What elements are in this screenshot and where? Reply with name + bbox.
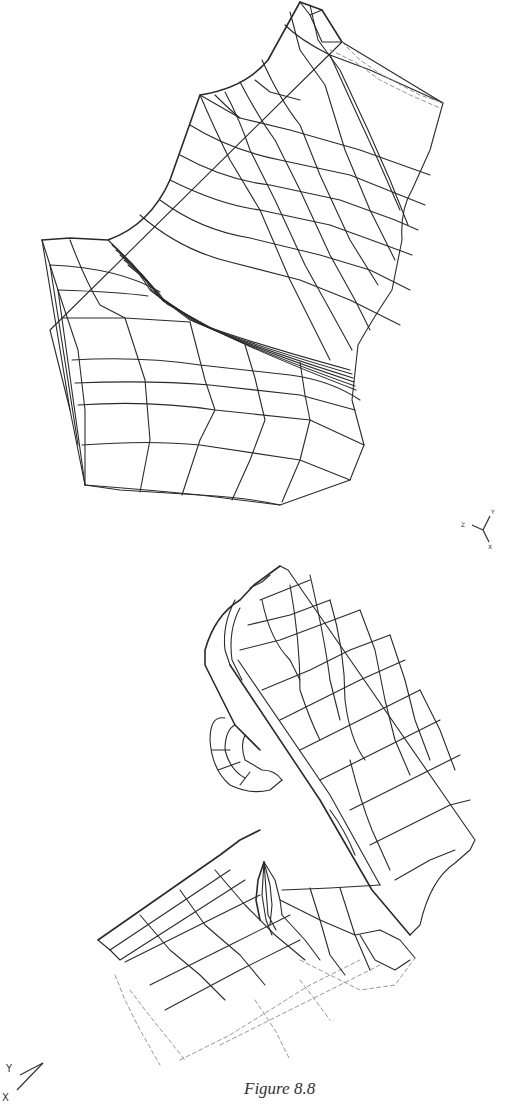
figure-canvas: Z Y X [0,0,508,1117]
bottom-mesh [98,566,475,1065]
top-mesh [42,2,443,505]
top-triad-y-label: Y [490,508,495,515]
figure-caption: Figure 8.8 [244,1079,315,1099]
top-axis-triad: Z Y X [461,508,495,550]
top-triad-x-label: X [488,543,492,550]
bottom-triad-y-label: Y [5,1063,13,1074]
top-triad-z-label: Z [461,521,465,528]
bottom-triad-x-label: X [2,1092,9,1103]
bottom-axis-triad: Y X [2,1063,43,1103]
